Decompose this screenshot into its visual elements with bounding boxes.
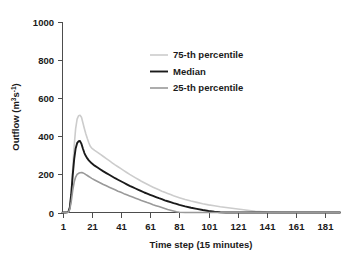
y-tick-label: 200 bbox=[38, 169, 54, 180]
y-tick-label: 0 bbox=[49, 208, 54, 219]
outflow-hydrograph-chart: 02004006008001000 1214161811011211411611… bbox=[0, 0, 345, 267]
x-tick-label: 81 bbox=[174, 221, 185, 232]
y-tick-label: 600 bbox=[38, 93, 54, 104]
x-tick-label: 41 bbox=[116, 221, 127, 232]
chart-figure: 02004006008001000 1214161811011211411611… bbox=[0, 0, 345, 267]
x-tick-label: 1 bbox=[61, 221, 67, 232]
x-axis-title: Time step (15 minutes) bbox=[150, 239, 253, 250]
legend-label: Median bbox=[173, 66, 206, 77]
y-tick-label: 800 bbox=[38, 55, 54, 66]
y-axis-title-group: Outflow (m3s-1) bbox=[10, 83, 22, 150]
x-tick-label: 121 bbox=[231, 221, 248, 232]
x-tick-label: 21 bbox=[87, 221, 98, 232]
x-tick-label: 101 bbox=[202, 221, 219, 232]
legend-label: 75-th percentile bbox=[173, 49, 243, 60]
y-tick-label: 1000 bbox=[33, 17, 54, 28]
x-axis-title-group: Time step (15 minutes) bbox=[150, 239, 253, 250]
y-tick-label: 400 bbox=[38, 131, 54, 142]
legend-label: 25-th percentile bbox=[173, 82, 243, 93]
x-tick-label: 161 bbox=[289, 221, 306, 232]
x-tick-label: 181 bbox=[318, 221, 335, 232]
x-tick-label: 61 bbox=[145, 221, 156, 232]
y-axis-title: Outflow (m3s-1) bbox=[10, 83, 22, 150]
x-tick-label: 141 bbox=[260, 221, 277, 232]
